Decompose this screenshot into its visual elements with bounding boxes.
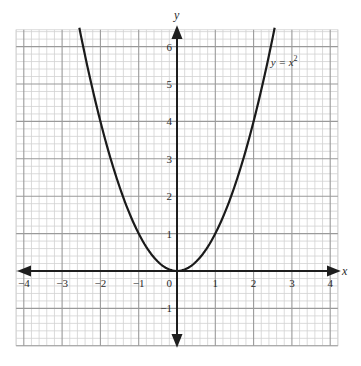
x-tick-label: 4 [327,277,333,289]
x-tick-label: 1 [213,277,219,289]
x-tick-label: 2 [251,277,257,289]
x-tick-label: −3 [56,277,68,289]
y-tick-label: 5 [167,78,173,90]
y-tick-label: 3 [167,153,173,165]
x-tick-label: 3 [289,277,295,289]
parabola-chart: −4−3−2−11234−11234560 x y y = x2 [0,0,361,366]
x-tick-label: −2 [95,277,107,289]
origin-label: 0 [167,277,173,289]
curve-equation-label: y = x2 [270,54,298,68]
curve-label-text: y = x [270,56,294,68]
curve-label-exponent: 2 [294,54,298,63]
tick-labels: −4−3−2−11234−11234560 [18,41,334,315]
y-axis-label: y [173,8,180,22]
x-tick-label: −4 [18,277,30,289]
x-tick-label: −1 [133,277,145,289]
y-tick-label: 1 [167,228,173,240]
y-tick-label: 2 [167,190,173,202]
axes [20,28,338,345]
x-axis-label: x [341,264,348,278]
y-tick-label: 4 [167,115,173,127]
y-tick-label: 6 [167,41,173,53]
y-tick-label: −1 [160,302,172,314]
